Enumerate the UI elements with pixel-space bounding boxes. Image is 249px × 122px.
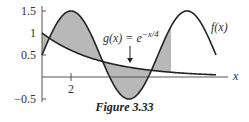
x-axis-label: x <box>232 69 239 83</box>
y-tick-label: 0.5 <box>21 48 36 62</box>
y-tick-label: 1.5 <box>21 4 36 18</box>
g-label: g(x) = e−x/4 <box>103 29 159 45</box>
shaded-region <box>42 11 171 99</box>
figure-caption: Figure 3.33 <box>0 100 249 115</box>
x-tick-label: 2 <box>68 82 74 96</box>
arrow-head-icon <box>127 58 133 63</box>
f-label: f(x) <box>211 20 228 34</box>
y-tick-label: 1 <box>30 26 36 40</box>
